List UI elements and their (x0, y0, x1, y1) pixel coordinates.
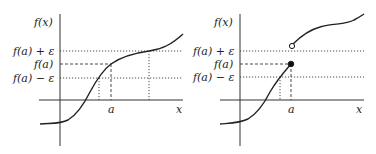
label-lower-epsilon: f(a) − ε (192, 71, 234, 84)
filled-point-fa (288, 61, 294, 67)
x-axis-label: x (356, 103, 363, 116)
function-curve-right (293, 14, 364, 44)
x-axis-label: x (176, 103, 183, 116)
epsilon-continuity-figure: f(x) f(a) + ε f(a) f(a) − ε a x f(x) f(a… (0, 0, 376, 154)
diagram-discontinuous: f(x) f(a) + ε f(a) f(a) − ε a x (192, 14, 364, 146)
y-axis-label: f(x) (213, 16, 233, 29)
x-tick-a: a (288, 103, 295, 116)
diagram-continuous: f(x) f(a) + ε f(a) f(a) − ε a x (12, 14, 183, 146)
x-tick-a: a (108, 103, 115, 116)
open-point-jump (289, 43, 294, 48)
label-fa: f(a) (213, 58, 233, 71)
label-upper-epsilon: f(a) + ε (192, 45, 234, 58)
y-axis-label: f(x) (33, 16, 53, 29)
label-lower-epsilon: f(a) − ε (12, 72, 54, 85)
label-fa: f(a) (33, 58, 53, 71)
label-upper-epsilon: f(a) + ε (12, 45, 54, 58)
